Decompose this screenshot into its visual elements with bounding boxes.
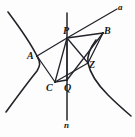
point-label-Z: Z <box>89 60 95 70</box>
segment-p-z <box>67 38 88 63</box>
vertex-c <box>54 81 56 83</box>
geometry-canvas <box>0 0 135 137</box>
point-label-B: B <box>104 26 111 36</box>
point-label-A: A <box>27 51 34 61</box>
point-label-Q: Q <box>64 83 71 93</box>
point-label-C: C <box>46 83 53 93</box>
vertex-a <box>36 55 38 57</box>
vertex-p <box>66 37 68 39</box>
geometry-figure: aBPAZCQn <box>0 0 135 137</box>
vertex-q <box>66 79 68 81</box>
point-label-a: a <box>118 3 123 12</box>
point-label-n: n <box>64 121 69 130</box>
point-label-P: P <box>63 26 69 36</box>
segment-a-c <box>37 56 55 82</box>
segment-b-q <box>67 33 103 80</box>
curve-left-branch <box>6 12 40 112</box>
